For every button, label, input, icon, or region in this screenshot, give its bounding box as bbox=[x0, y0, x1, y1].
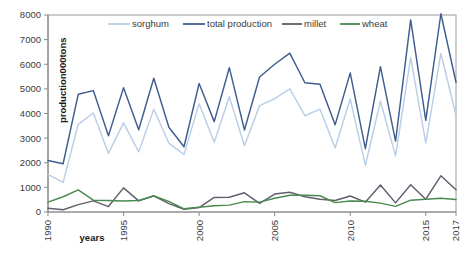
x-axis-tick-label: 2017 bbox=[450, 220, 461, 241]
x-axis-tick-label: 1995 bbox=[118, 220, 129, 241]
x-axis-tick-label: 2000 bbox=[194, 220, 205, 241]
y-axis-tick-label: 4000 bbox=[20, 108, 41, 119]
chart-container: 0100020003000400050006000700080001990199… bbox=[0, 0, 468, 254]
y-axis-tick-label: 7000 bbox=[20, 34, 41, 45]
y-axis-tick-label: 3000 bbox=[20, 133, 41, 144]
x-axis-tick-label: 2010 bbox=[345, 220, 356, 241]
y-axis-tick-label: 0 bbox=[36, 206, 41, 217]
y-axis-title: production000tons bbox=[57, 37, 68, 123]
y-axis-tick-label: 1000 bbox=[20, 182, 41, 193]
x-axis-title: years bbox=[80, 232, 105, 243]
legend-label-total-production: total production bbox=[207, 18, 272, 29]
series-line-sorghum bbox=[48, 53, 456, 182]
y-axis-tick-label: 6000 bbox=[20, 59, 41, 70]
legend-label-wheat: wheat bbox=[361, 18, 388, 29]
y-axis-tick-label: 5000 bbox=[20, 83, 41, 94]
line-chart: 0100020003000400050006000700080001990199… bbox=[0, 0, 468, 254]
series-line-millet bbox=[48, 176, 456, 210]
legend-label-millet: millet bbox=[304, 18, 327, 29]
plot-area-border bbox=[48, 15, 456, 212]
legend-label-sorghum: sorghum bbox=[132, 18, 169, 29]
y-axis-tick-label: 2000 bbox=[20, 157, 41, 168]
series-line-total-production bbox=[48, 14, 456, 164]
x-axis-tick-label: 1990 bbox=[42, 220, 53, 241]
x-axis-tick-label: 2015 bbox=[420, 220, 431, 241]
x-axis-tick-label: 2005 bbox=[269, 220, 280, 241]
y-axis-tick-label: 8000 bbox=[20, 9, 41, 20]
